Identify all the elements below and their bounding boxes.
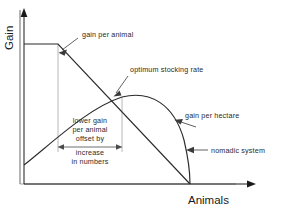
range-bracket-left-arrowhead — [58, 144, 65, 149]
optimum-stocking-rate-leader — [116, 76, 128, 93]
x-axis-arrowhead — [247, 181, 256, 188]
gain-per-hectare-arrowhead — [174, 119, 183, 125]
nomadic-system-label: nomadic system — [211, 146, 265, 155]
bracket-line-2: per animal — [72, 125, 107, 134]
y-axis-arrowhead — [21, 8, 28, 17]
gain-per-hectare-curve — [24, 95, 190, 184]
stocking-rate-diagram: gain per animal optimum stocking rate ga… — [0, 0, 290, 211]
gain-per-animal-arrowhead — [59, 50, 68, 56]
chart-page: gain per animal optimum stocking rate ga… — [0, 0, 290, 211]
range-bracket-right-arrowhead — [116, 144, 123, 149]
gain-per-animal-label: gain per animal — [82, 30, 134, 39]
bracket-line-4: increase — [76, 148, 104, 157]
optimum-stocking-rate-label: optimum stocking rate — [130, 65, 203, 74]
lower-gain-annotation-block: lower gain per animal offset by increase… — [71, 116, 108, 166]
y-axis-title: Gain — [3, 26, 15, 50]
bracket-line-3: offset by — [76, 134, 105, 143]
nomadic-system-arrowhead — [186, 147, 194, 153]
x-axis-title: Animals — [188, 194, 229, 206]
gain-per-animal-leader — [62, 38, 78, 50]
bracket-line-5: in numbers — [71, 157, 108, 166]
gain-per-hectare-label: gain per hectare — [185, 111, 239, 120]
bracket-line-1: lower gain — [73, 116, 107, 125]
